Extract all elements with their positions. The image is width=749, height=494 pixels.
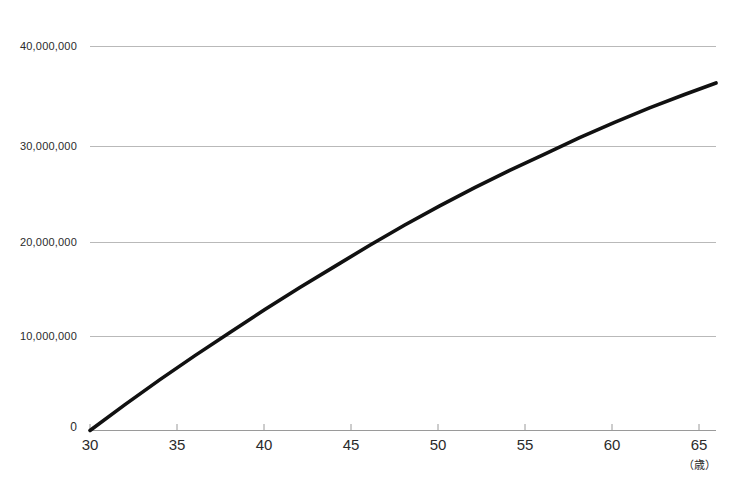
y-tick-label-20m: 20,000,000: [20, 236, 77, 248]
x-tick-label-30: 30: [70, 436, 110, 453]
y-tick-label-40m: 40,000,000: [20, 40, 77, 52]
x-tick-label-35: 35: [157, 436, 197, 453]
x-tick-label-55: 55: [505, 436, 545, 453]
chart-container: 40,000,000 30,000,000 20,000,000 10,000,…: [0, 0, 749, 494]
x-tick-label-40: 40: [244, 436, 284, 453]
data-line-cumulative-amount: [90, 83, 716, 431]
x-tick-label-65: 65: [679, 436, 719, 453]
x-tick-label-60: 60: [592, 436, 632, 453]
y-tick-label-0: 0: [70, 420, 77, 434]
x-tick-label-50: 50: [418, 436, 458, 453]
gridlines: [90, 47, 716, 337]
x-axis-unit-label: （歳）: [679, 456, 719, 472]
chart-plot-area: [0, 0, 749, 494]
x-axis-ticks: [90, 424, 699, 430]
x-tick-label-45: 45: [331, 436, 371, 453]
y-tick-label-30m: 30,000,000: [20, 140, 77, 152]
y-tick-label-10m: 10,000,000: [20, 330, 77, 342]
